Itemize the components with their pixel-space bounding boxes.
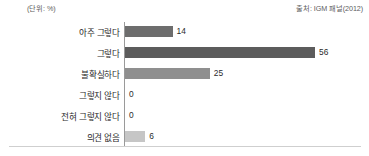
bar-row: 불확실하다25 [0,63,369,84]
bar-row: 아주 그렇다14 [0,21,369,42]
chart-header: (단위: %) 출처: IGM 패널(2012) [0,3,369,15]
bar-row: 그렇다56 [0,42,369,63]
source-note: 출처: IGM 패널(2012) [296,3,363,13]
bar-value-label: 0 [129,89,134,100]
unit-note: (단위: %) [27,3,55,13]
bar [125,26,173,37]
bar [125,47,315,58]
bar [125,68,210,79]
category-label: 그렇지 않다 [0,89,120,101]
bar-value-label: 14 [177,26,186,37]
bar-value-label: 56 [319,47,328,58]
bar-rows: 아주 그렇다14그렇다56불확실하다25그렇지 않다0전혀 그렇지 않다0의견 … [0,20,369,146]
bar-row: 전혀 그렇지 않다0 [0,105,369,126]
category-label: 아주 그렇다 [0,26,120,38]
bar-value-label: 6 [149,131,154,142]
bar-value-label: 0 [129,110,134,121]
plot-area: 아주 그렇다14그렇다56불확실하다25그렇지 않다0전혀 그렇지 않다0의견 … [0,20,369,150]
bar-value-label: 25 [214,68,223,79]
bar-row: 의견 없음6 [0,126,369,147]
category-label: 그렇다 [0,47,120,59]
bar [125,131,145,142]
bar-row: 그렇지 않다0 [0,84,369,105]
bar-chart-figure: (단위: %) 출처: IGM 패널(2012) 아주 그렇다14그렇다56불확… [0,0,369,156]
category-label: 전혀 그렇지 않다 [0,110,120,122]
category-label: 불확실하다 [0,68,120,80]
category-label: 의견 없음 [0,131,120,143]
